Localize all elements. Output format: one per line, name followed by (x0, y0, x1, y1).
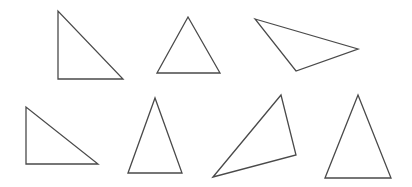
isosceles-triangle-2 (128, 98, 182, 173)
isosceles-triangle-1 (157, 17, 220, 73)
obtuse-triangle-1 (255, 19, 358, 71)
right-triangle-1 (58, 11, 123, 79)
triangle-canvas (0, 0, 412, 187)
isosceles-triangle-3 (325, 95, 391, 178)
obtuse-triangle-2 (213, 95, 296, 177)
right-triangle-2 (26, 107, 98, 164)
